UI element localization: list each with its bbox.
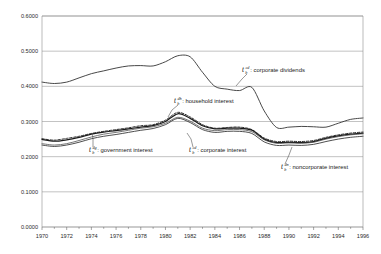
x-tick-label: 1970	[36, 233, 48, 239]
y-tick-label: 0.4000	[21, 83, 38, 89]
annotation-subscript-noncorporate-interest: b	[284, 167, 286, 172]
x-tick-label: 1996	[357, 233, 369, 239]
annotation-text-corporate-interest: : corporate interest	[197, 147, 246, 153]
x-tick-label: 1994	[332, 233, 344, 239]
x-tick-label: 1982	[184, 233, 196, 239]
y-tick-label: 0.6000	[21, 13, 38, 19]
x-tick-label: 1986	[233, 233, 245, 239]
annotation-text-noncorporate-interest: : noncorporate interest	[289, 164, 348, 170]
x-tick-label: 1984	[209, 233, 221, 239]
chart-container: 0.00000.10000.20000.30000.40000.50000.60…	[0, 0, 381, 254]
x-tick-label: 1978	[135, 233, 147, 239]
annotation-text-corporate-dividends: : corporate dividends	[250, 67, 305, 73]
y-tick-label: 0.0000	[21, 224, 38, 230]
x-tick-label: 1974	[85, 233, 97, 239]
x-tick-label: 1980	[159, 233, 171, 239]
annotation-text-household-interest: : household interest	[182, 98, 234, 104]
x-tick-label: 1990	[283, 233, 295, 239]
y-tick-label: 0.3000	[21, 119, 38, 125]
annotation-subscript-household-interest: b	[177, 101, 179, 106]
y-tick-label: 0.1000	[21, 189, 38, 195]
x-tick-label: 1972	[60, 233, 72, 239]
x-tick-label: 1988	[258, 233, 270, 239]
x-tick-label: 1976	[110, 233, 122, 239]
annotation-superscript-household-interest: dh	[177, 96, 181, 101]
y-tick-label: 0.5000	[21, 48, 38, 54]
annotation-subscript-government-interest: b	[92, 150, 94, 155]
annotation-subscript-corporate-interest: b	[192, 150, 194, 155]
annotation-subscript-corporate-dividends: b	[245, 70, 247, 75]
annotation-superscript-government-interest: dg	[92, 145, 96, 150]
y-tick-label: 0.2000	[21, 154, 38, 160]
annotation-text-government-interest: : government interest	[97, 147, 153, 153]
tax-rate-line-chart: 0.00000.10000.20000.30000.40000.50000.60…	[0, 0, 381, 254]
x-tick-label: 1992	[307, 233, 319, 239]
annotation-superscript-noncorporate-interest: dn	[284, 162, 288, 167]
